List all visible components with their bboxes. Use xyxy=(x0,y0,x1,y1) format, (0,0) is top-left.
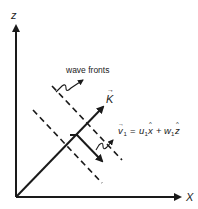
wave-vector-arrow-mark: → xyxy=(107,86,114,93)
x-axis-label: X xyxy=(185,191,194,203)
equals-sign: = xyxy=(130,125,136,136)
wave-front-lower xyxy=(33,110,102,183)
plus-sign: + xyxy=(156,125,162,136)
z-hat-symbol: z xyxy=(174,125,180,136)
v-subscript: 1 xyxy=(124,131,128,137)
wave-diagram: z X → K wave fronts → v 1 = u 1 ^ x + w … xyxy=(0,0,198,209)
z-axis-label: z xyxy=(10,9,17,21)
wave-fronts-pointer xyxy=(56,80,83,92)
wave-fronts-label: wave fronts xyxy=(65,65,109,75)
wave-vector-label: K xyxy=(106,93,114,105)
velocity-vector xyxy=(77,135,102,161)
wave-vector-k xyxy=(17,107,103,196)
velocity-equation: → v 1 = u 1 ^ x + w 1 ^ z xyxy=(118,121,180,137)
x-hat-symbol: x xyxy=(147,125,154,136)
